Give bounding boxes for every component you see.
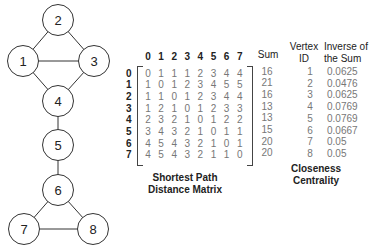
matrix-cell: 0	[194, 114, 207, 125]
matrix-cell: 2	[155, 103, 168, 114]
matrix-cell: 3	[155, 114, 168, 125]
centrality-caption-line2: Centrality	[284, 175, 348, 187]
graph-node-4: 4	[43, 86, 74, 117]
matrix-cell: 1	[194, 126, 207, 137]
matrix-cell: 1	[207, 138, 220, 149]
sum-header: Sum	[255, 49, 281, 61]
matrix-row-header: 4	[126, 114, 132, 125]
svg-text:6: 6	[54, 183, 61, 198]
matrix-cell: 4	[168, 138, 181, 149]
matrix-cell: 4	[142, 149, 155, 160]
matrix-cell: 1	[207, 114, 220, 125]
graph-node-8: 8	[78, 214, 109, 245]
matrix-row-header: 3	[126, 103, 132, 114]
matrix-cell: 0	[207, 126, 220, 137]
matrix-cell: 0	[168, 91, 181, 102]
matrix-cell: 2	[207, 103, 220, 114]
matrix-cell: 1	[181, 91, 194, 102]
matrix-cell: 0	[220, 138, 233, 149]
matrix-row-header: 0	[126, 68, 132, 79]
graph-node-6: 6	[43, 175, 74, 206]
graph-node-1: 1	[8, 46, 39, 77]
matrix-cell: 1	[181, 68, 194, 79]
inverse-sum-value: 0.0769	[327, 113, 358, 124]
matrix-cell: 0	[142, 68, 155, 79]
row-sum: 13	[256, 112, 278, 123]
inverse-sum-value: 0.05	[327, 148, 346, 159]
matrix-row-header: 6	[126, 138, 132, 149]
matrix-cell: 1	[220, 126, 233, 137]
matrix-cell: 0	[155, 79, 168, 90]
matrix-caption: Shortest Path Distance Matrix	[130, 172, 240, 196]
matrix-cell: 1	[168, 68, 181, 79]
matrix-cell: 1	[207, 149, 220, 160]
matrix-row-header: 7	[126, 149, 132, 160]
matrix-cell: 4	[220, 68, 233, 79]
matrix-cell: 4	[142, 138, 155, 149]
vertex-id-header: Vertex ID	[286, 41, 322, 65]
row-sum: 13	[256, 101, 278, 112]
matrix-cell: 2	[181, 126, 194, 137]
matrix-cell: 1	[142, 79, 155, 90]
matrix-cell: 3	[220, 103, 233, 114]
matrix-cell: 3	[194, 79, 207, 90]
matrix-caption-line2: Distance Matrix	[130, 184, 240, 196]
matrix-left-bracket	[137, 66, 143, 166]
graph-node-3: 3	[79, 46, 110, 77]
matrix-cell: 4	[233, 68, 246, 79]
matrix-cell: 1	[168, 79, 181, 90]
matrix-cell: 5	[233, 79, 246, 90]
matrix-cell: 5	[155, 149, 168, 160]
svg-text:1: 1	[19, 54, 26, 69]
graph-node-7: 7	[9, 214, 40, 245]
matrix-cell: 2	[194, 91, 207, 102]
matrix-cell: 1	[155, 91, 168, 102]
matrix-cell: 2	[194, 149, 207, 160]
centrality-caption: Closeness Centrality	[284, 163, 348, 187]
row-sum: 15	[256, 124, 278, 135]
matrix-cell: 3	[181, 149, 194, 160]
matrix-cell: 1	[155, 68, 168, 79]
matrix-cell: 4	[220, 91, 233, 102]
inverse-sum-header: Inverse of the Sum	[324, 41, 368, 65]
matrix-column-header: 4	[194, 51, 207, 62]
matrix-cell: 1	[168, 103, 181, 114]
matrix-caption-line1: Shortest Path	[130, 172, 240, 184]
inverse-sum-value: 0.0625	[327, 89, 358, 100]
inverse-sum-value: 0.0625	[327, 66, 358, 77]
matrix-cell: 3	[142, 126, 155, 137]
matrix-cell: 5	[220, 79, 233, 90]
vertex-id: 2	[303, 78, 317, 89]
vertex-id: 8	[303, 148, 317, 159]
inverse-header-line1: Inverse of	[324, 41, 368, 53]
vertex-id: 3	[303, 89, 317, 100]
vertex-id: 7	[303, 136, 317, 147]
inverse-header-line2: the Sum	[324, 53, 368, 65]
vertex-id: 1	[303, 66, 317, 77]
matrix-cell: 4	[233, 91, 246, 102]
matrix-cell: 2	[181, 79, 194, 90]
matrix-column-header: 1	[155, 51, 168, 62]
matrix-cell: 3	[233, 103, 246, 114]
matrix-cell: 1	[220, 149, 233, 160]
graph-node-2: 2	[43, 5, 74, 36]
inverse-sum-value: 0.0769	[327, 101, 358, 112]
matrix-row-header: 5	[126, 126, 132, 137]
svg-text:8: 8	[89, 222, 96, 237]
matrix-cell: 5	[155, 138, 168, 149]
matrix-cell: 1	[194, 103, 207, 114]
matrix-cell: 2	[142, 114, 155, 125]
svg-text:4: 4	[54, 94, 61, 109]
matrix-cell: 1	[142, 91, 155, 102]
matrix-column-header: 3	[181, 51, 194, 62]
matrix-row-header: 1	[126, 79, 132, 90]
row-sum: 20	[256, 136, 278, 147]
matrix-column-header: 7	[233, 51, 246, 62]
svg-text:5: 5	[54, 138, 61, 153]
centrality-caption-line1: Closeness	[284, 163, 348, 175]
matrix-cell: 0	[233, 149, 246, 160]
matrix-cell: 2	[194, 138, 207, 149]
matrix-column-header: 2	[168, 51, 181, 62]
matrix-cell: 2	[233, 114, 246, 125]
vertex-header-line2: ID	[286, 53, 322, 65]
